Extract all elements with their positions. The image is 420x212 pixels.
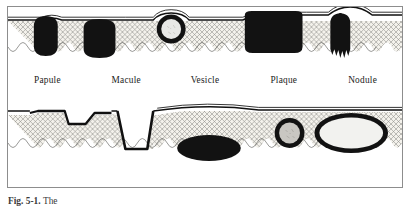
figure-skin-lesions: Papule Macule Vesicle Plaque Nodule [0, 0, 420, 212]
skin-cross-section-row1 [8, 7, 402, 99]
figure-caption-number: Fig. 5-1. [8, 196, 41, 206]
label-macule: Macule [87, 75, 166, 85]
label-plaque: Plaque [244, 75, 323, 85]
label-nodule: Nodule [323, 75, 402, 85]
lesion-papule [34, 16, 58, 56]
lesion-macule [84, 19, 116, 58]
secondary-lesions-row: Erosion Ulcer Wheal Pustule Bulla [8, 99, 402, 189]
skin-cross-section-row2 [8, 99, 402, 189]
lesion-plaque [245, 11, 303, 53]
figure-frame: Papule Macule Vesicle Plaque Nodule [7, 6, 403, 188]
lesion-wheal [177, 135, 241, 161]
primary-lesions-row: Papule Macule Vesicle Plaque Nodule [8, 7, 402, 99]
lesion-nodule [330, 13, 350, 58]
figure-caption-text: The [43, 196, 58, 206]
lesion-bulla-fluid [319, 118, 383, 149]
label-papule: Papule [8, 75, 87, 85]
figure-caption: Fig. 5-1. The [8, 196, 412, 206]
label-vesicle: Vesicle [166, 75, 245, 85]
primary-lesion-labels: Papule Macule Vesicle Plaque Nodule [8, 75, 402, 85]
